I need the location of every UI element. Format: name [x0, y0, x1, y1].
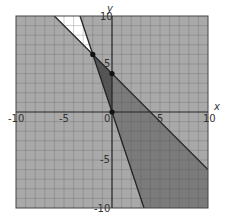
origin-label: 0: [104, 113, 110, 124]
y-tick-neg10: -10: [94, 203, 110, 214]
x-tick-10: 10: [203, 113, 216, 124]
y-tick-5: 5: [104, 58, 110, 69]
inequality-graph: x y -10 -5 0 5 10 10 5 -5 -10: [0, 0, 228, 216]
x-tick-5: 5: [157, 113, 163, 124]
x-tick-neg5: -5: [59, 113, 69, 124]
y-tick-neg5: -5: [100, 154, 110, 165]
line-1-y-intercept-point: [109, 71, 114, 76]
x-tick-neg10: -10: [8, 113, 24, 124]
x-axis-label: x: [213, 101, 220, 112]
y-tick-10: 10: [100, 11, 113, 22]
intersection-point: [90, 52, 95, 57]
